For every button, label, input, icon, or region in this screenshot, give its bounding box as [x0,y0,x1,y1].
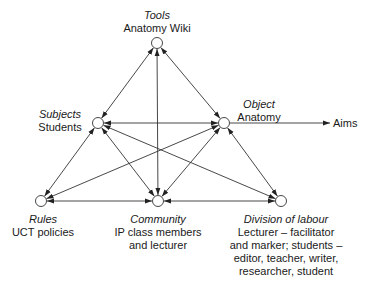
node-value: researcher, student [230,265,343,278]
node-role: Subjects [38,108,81,121]
node-value: UCT policies [12,226,74,239]
node-object [219,118,230,129]
node-value: Students [38,121,81,134]
outcome-label-aims: Aims [333,117,357,130]
edge-tools-object [161,48,220,119]
node-subjects [93,118,104,129]
edge-tools-subjects [102,48,154,118]
node-label-subjects: Subjects Students [38,108,81,134]
node-role: Community [114,213,201,226]
node-value: editor, teacher, writer, [230,252,343,265]
node-tools [152,38,163,49]
edge-subjects-rules [45,128,95,196]
node-value: Anatomy [237,111,280,124]
node-community [153,196,164,207]
node-role: Division of labour [230,213,343,226]
node-value: Anatomy Wiki [123,22,190,35]
node-label-rules: Rules UCT policies [12,213,74,239]
node-value: and marker; students – [230,239,343,252]
node-rules [36,196,47,207]
node-label-community: Community IP class members and lecturer [114,213,201,252]
edge-object-rules [47,125,219,198]
edge-object-division [228,128,278,196]
edge-subjects-community [102,128,155,196]
node-value: Lecturer – facilitator [230,226,343,239]
node-division [276,196,287,207]
node-value: IP class members [114,226,201,239]
node-role: Object [237,98,280,111]
node-value: and lecturer [114,239,201,252]
node-role: Rules [12,213,74,226]
edge-subjects-division [104,125,276,198]
node-label-division: Division of labour Lecturer – facilitato… [230,213,343,278]
node-label-tools: Tools Anatomy Wiki [123,9,190,35]
node-label-object: Object Anatomy [237,98,280,124]
node-role: Tools [123,9,190,22]
edge-object-community [162,128,220,197]
edge-tools-community [157,49,158,195]
